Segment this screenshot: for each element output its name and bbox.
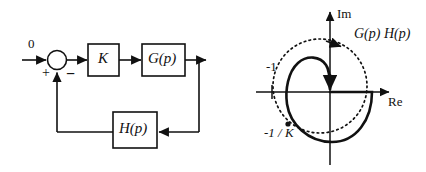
plant-block-label: G(p): [148, 51, 176, 66]
gain-block-label: K: [98, 51, 108, 66]
figure-root: 0 + − K G(p) H(p) Im Re G(p) H(p) -1 -1 …: [0, 0, 426, 172]
gh-locus-outer-loop: [286, 58, 372, 142]
minus-one-over-k-label: -1 / K: [264, 126, 294, 139]
input-signal-label: 0: [28, 37, 35, 50]
summing-junction: [48, 51, 67, 70]
minus-one-tick-label: -1: [266, 60, 277, 73]
feedback-block-label: H(p): [119, 121, 147, 136]
block-diagram: [22, 44, 206, 148]
imaginary-axis-label: Im: [337, 7, 351, 20]
gh-curve-label: G(p) H(p): [354, 27, 410, 41]
summing-junction-plus-sign: +: [42, 66, 50, 80]
summing-junction-minus-sign: −: [66, 66, 75, 82]
real-axis-label: Re: [388, 95, 402, 108]
